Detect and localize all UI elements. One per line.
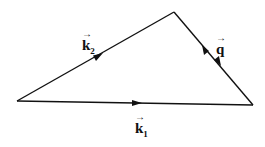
arrow-q-up-icon [202, 45, 209, 55]
arrow-k1-icon [132, 100, 142, 106]
vector-arrow-icon: → [135, 112, 145, 122]
label-k1: →k1 [135, 121, 148, 139]
vector-arrow-icon: → [216, 33, 226, 43]
edge-q [174, 12, 253, 105]
vector-arrow-icon: → [82, 29, 92, 39]
vector-triangle [0, 0, 265, 147]
label-q: →q [216, 42, 224, 57]
label-k2: →k2 [82, 38, 95, 56]
